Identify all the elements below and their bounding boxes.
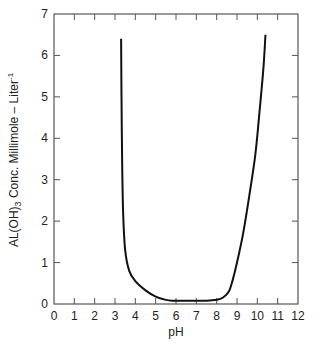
y-tick-label: 0 [41,297,48,311]
x-tick-label: 2 [91,309,98,323]
y-tick-label: 6 [41,48,48,62]
y-axis-label: AL(OH)3 Conc. Millimole – Liter-1 [6,72,23,247]
y-tick-label: 4 [41,131,48,145]
x-tick-label: 8 [213,309,220,323]
x-tick-label: 12 [291,309,305,323]
x-tick-label: 11 [271,309,284,323]
y-tick-label: 5 [41,90,48,104]
x-tick-label: 9 [234,309,241,323]
x-tick-label: 7 [193,309,200,323]
solubility-chart: 012345678910111201234567 pH AL(OH)3 Conc… [0,0,315,352]
x-tick-label: 0 [51,309,58,323]
x-tick-label: 5 [152,309,159,323]
axis-ticks: 012345678910111201234567 [41,7,305,323]
x-tick-label: 3 [112,309,119,323]
plot-axes [54,14,298,304]
y-tick-label: 7 [41,7,48,21]
x-tick-label: 4 [132,309,139,323]
x-tick-label: 1 [71,309,78,323]
y-tick-label: 3 [41,173,48,187]
y-tick-label: 1 [41,256,48,270]
y-tick-label: 2 [41,214,48,228]
x-tick-label: 6 [173,309,180,323]
solubility-curve [121,35,265,301]
x-axis-label: pH [168,325,183,339]
x-tick-label: 10 [251,309,265,323]
